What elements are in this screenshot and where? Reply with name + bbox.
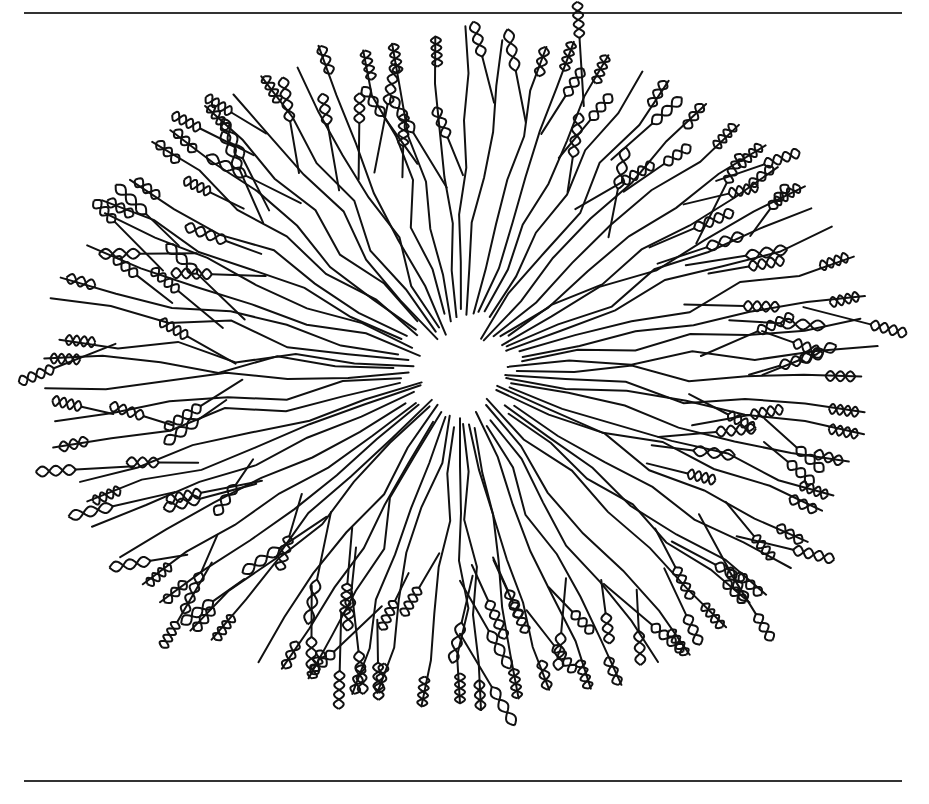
radial-helix-tree-illustration [0,0,929,804]
branches [44,26,877,710]
bottom-rule [24,780,902,782]
